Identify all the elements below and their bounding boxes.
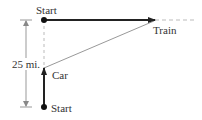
car-start-dot [41,104,47,110]
car-label: Car [52,70,68,81]
train-label: Train [153,25,176,36]
hypotenuse-line [44,21,154,68]
train-start-dot [41,17,47,23]
motion-diagram: Start Train Car Start 25 mi. [0,0,202,120]
car-start-label: Start [51,103,72,114]
distance-label: 25 mi. [11,59,41,70]
train-start-label: Start [36,5,57,16]
